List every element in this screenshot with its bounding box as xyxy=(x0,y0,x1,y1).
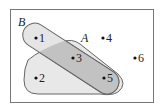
svg-text:1: 1 xyxy=(39,31,45,45)
svg-text:4: 4 xyxy=(106,31,112,45)
venn-svg: B A 1 2 3 4 5 6 xyxy=(0,0,162,112)
svg-text:2: 2 xyxy=(39,71,45,85)
venn-diagram: B A 1 2 3 4 5 6 xyxy=(0,0,162,112)
svg-text:5: 5 xyxy=(107,71,113,85)
svg-text:3: 3 xyxy=(76,51,82,65)
set-a-label: A xyxy=(80,31,89,45)
set-b-label: B xyxy=(18,15,26,29)
svg-text:6: 6 xyxy=(138,51,144,65)
